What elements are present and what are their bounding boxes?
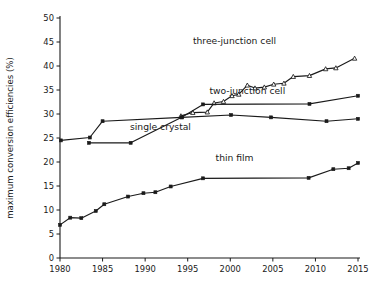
series-polyline (60, 163, 358, 225)
data-point-marker (87, 141, 90, 144)
series-label-single-crystal: single crystal (130, 121, 191, 132)
data-point-marker (357, 161, 360, 164)
x-tick-label: 1990 (134, 264, 155, 274)
data-point-marker (180, 116, 183, 119)
data-point-marker (169, 185, 172, 188)
series-label-two-junction-cell: two-junction cell (209, 85, 285, 96)
data-point-marker (308, 102, 311, 105)
data-point-marker (88, 136, 91, 139)
data-point-marker (59, 223, 62, 226)
data-point-marker (291, 74, 295, 78)
series-single-crystal (59, 113, 359, 141)
data-point-marker (129, 141, 132, 144)
data-point-marker (101, 120, 104, 123)
data-point-marker (357, 94, 360, 97)
data-point-marker (127, 195, 130, 198)
series-thin-film (59, 161, 360, 226)
series-polyline (61, 115, 358, 140)
data-point-marker (154, 191, 157, 194)
y-axis: 05101520253035404550 (43, 13, 60, 263)
y-tick-label: 20 (43, 157, 54, 167)
data-point-marker (202, 177, 205, 180)
data-point-marker (323, 67, 327, 71)
y-axis-title: maximum conversion efficiencies (%) (5, 57, 15, 219)
x-tick-label: 2000 (220, 264, 241, 274)
data-point-marker (103, 203, 106, 206)
data-point-marker (202, 103, 205, 106)
x-tick-label: 1985 (92, 264, 113, 274)
data-point-marker (347, 167, 350, 170)
series-label-three-junction-cell: three-junction cell (193, 35, 276, 46)
y-tick-label: 45 (43, 37, 54, 47)
x-tick-label: 1980 (49, 264, 70, 274)
data-point-marker (270, 116, 273, 119)
data-point-marker (334, 66, 338, 70)
x-tick-label: 2010 (305, 264, 326, 274)
data-point-marker (69, 216, 72, 219)
x-tick-label: 1995 (177, 264, 198, 274)
data-point-marker (307, 73, 311, 77)
y-tick-label: 30 (43, 109, 54, 119)
series-label-thin-film: thin film (216, 152, 254, 163)
data-point-marker (352, 56, 356, 60)
data-point-marker (59, 139, 62, 142)
series-annotations: three-junction celltwo-junction cellsing… (130, 35, 285, 163)
data-point-marker (307, 176, 310, 179)
x-tick-label: 2015 (347, 264, 368, 274)
x-tick-label: 2005 (262, 264, 283, 274)
y-tick-label: 35 (43, 85, 54, 95)
chart-container: 05101520253035404550 1980198519901995200… (0, 0, 376, 292)
y-tick-label: 50 (43, 13, 54, 23)
data-point-marker (142, 192, 145, 195)
y-tick-label: 10 (43, 205, 54, 215)
y-tick-label: 5 (49, 229, 54, 239)
y-tick-label: 40 (43, 61, 54, 71)
data-point-marker (325, 120, 328, 123)
data-point-marker (230, 113, 233, 116)
y-tick-label: 15 (43, 181, 54, 191)
chart-canvas: 05101520253035404550 1980198519901995200… (0, 0, 376, 292)
data-point-marker (332, 168, 335, 171)
y-axis-title-text: maximum conversion efficiencies (%) (5, 57, 15, 219)
y-tick-label: 25 (43, 133, 54, 143)
data-point-marker (94, 209, 97, 212)
data-series-group (59, 56, 360, 226)
data-point-marker (357, 117, 360, 120)
x-axis: 19801985199019952000200520102015 (49, 258, 368, 274)
data-point-marker (80, 217, 83, 220)
y-tick-label: 0 (49, 253, 54, 263)
